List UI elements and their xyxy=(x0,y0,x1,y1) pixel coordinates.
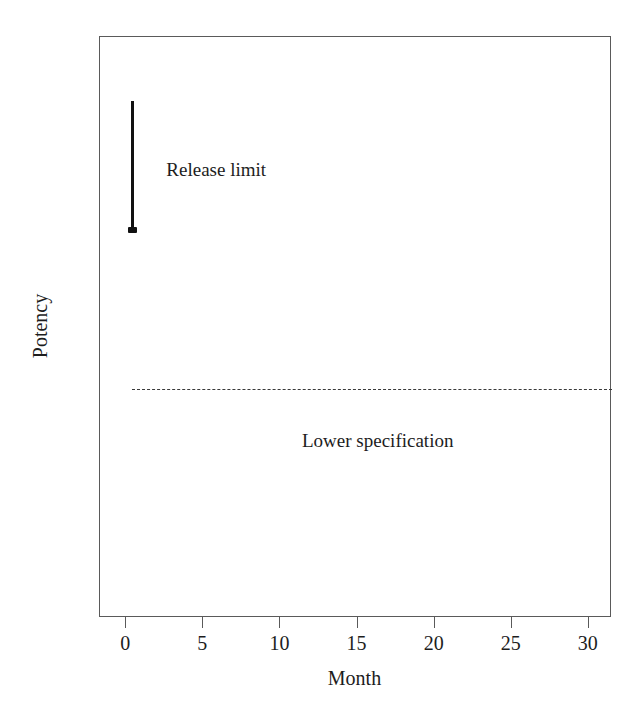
lower-specification-line xyxy=(132,389,612,390)
y-axis-title: Potency xyxy=(30,294,50,358)
x-axis-tick xyxy=(357,617,358,628)
plot-area: Release limit Lower specification xyxy=(99,36,611,617)
x-axis-tick xyxy=(434,617,435,628)
x-axis-tick xyxy=(125,617,126,628)
release-limit-bar xyxy=(131,101,135,231)
x-axis: 051015202530 xyxy=(99,617,611,663)
x-axis-tick-label: 15 xyxy=(347,633,367,653)
x-axis-tick-label: 30 xyxy=(578,633,598,653)
release-limit-annotation-label: Release limit xyxy=(166,160,266,179)
x-axis-tick xyxy=(202,617,203,628)
x-axis-tick xyxy=(588,617,589,628)
x-axis-title: Month xyxy=(0,668,635,688)
x-axis-title-text: Month xyxy=(328,667,381,689)
lower-specification-annotation-label: Lower specification xyxy=(302,431,453,450)
x-axis-tick xyxy=(511,617,512,628)
x-axis-tick-label: 10 xyxy=(269,633,289,653)
x-axis-tick-label: 0 xyxy=(120,633,130,653)
x-axis-tick xyxy=(279,617,280,628)
x-axis-tick-label: 25 xyxy=(501,633,521,653)
potency-stability-chart: Release limit Lower specification 051015… xyxy=(0,0,635,720)
release-limit-marker xyxy=(128,227,137,233)
x-axis-tick-label: 20 xyxy=(424,633,444,653)
x-axis-tick-label: 5 xyxy=(197,633,207,653)
